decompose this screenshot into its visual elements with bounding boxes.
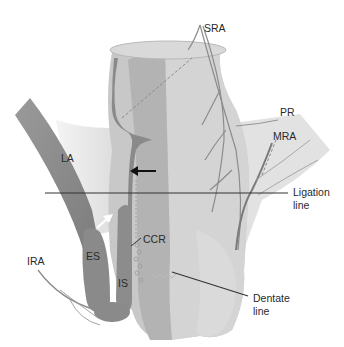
label-mra: MRA xyxy=(273,130,296,142)
label-ligation-1: Ligation xyxy=(293,186,330,198)
label-ccr: CCR xyxy=(143,233,166,245)
label-ligation-2: line xyxy=(293,199,310,211)
external-sphincter xyxy=(82,228,110,312)
label-la: LA xyxy=(61,152,74,164)
label-dentate-2: line xyxy=(253,305,270,317)
label-is: IS xyxy=(118,277,128,289)
label-dentate-1: Dentate xyxy=(253,292,290,304)
label-es: ES xyxy=(86,250,100,262)
anatomy-figure: SRA PR MRA LA Ligation line CCR ES IS IR… xyxy=(0,0,344,347)
label-ira: IRA xyxy=(27,255,45,267)
internal-sphincter xyxy=(116,205,132,312)
label-pr: PR xyxy=(280,106,295,118)
label-sra: SRA xyxy=(204,22,226,34)
